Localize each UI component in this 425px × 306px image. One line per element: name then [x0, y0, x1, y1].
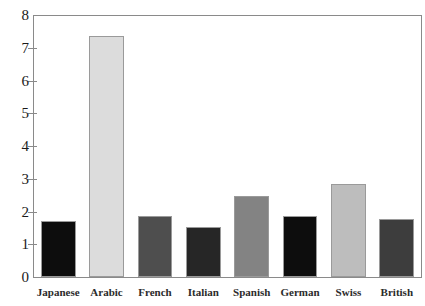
plot-top-border: [33, 15, 422, 16]
y-axis-tick-label: 1: [5, 237, 29, 252]
bar-german: [283, 216, 318, 277]
bar-japanese: [41, 221, 76, 277]
x-axis-label-arabic: Arabic: [82, 287, 130, 298]
y-axis-tick: [28, 212, 37, 213]
bar-swiss: [331, 184, 366, 277]
y-axis-tick: [28, 179, 37, 180]
x-axis-label-french: French: [131, 287, 179, 298]
y-axis-tick-label: 5: [5, 106, 29, 121]
y-axis-tick-label: 0: [5, 270, 29, 285]
bar-french: [138, 216, 173, 277]
x-axis-label-british: British: [373, 287, 421, 298]
y-axis-tick-label: 4: [5, 139, 29, 154]
x-axis-label-swiss: Swiss: [324, 287, 372, 298]
plot-right-border: [421, 15, 422, 278]
y-axis-tick: [28, 113, 37, 114]
bar-italian: [186, 227, 221, 277]
x-axis-label-japanese: Japanese: [34, 287, 82, 298]
bar-british: [379, 219, 414, 277]
x-axis-line: [33, 277, 422, 278]
y-axis-tick: [28, 48, 37, 49]
y-axis-tick-label: 3: [5, 171, 29, 186]
bar-spanish: [234, 196, 269, 277]
y-axis-tick-label: 8: [5, 8, 29, 23]
y-axis-tick-label: 2: [5, 204, 29, 219]
y-axis-tick-label: 7: [5, 40, 29, 55]
x-axis-label-german: German: [276, 287, 324, 298]
x-axis-label-italian: Italian: [179, 287, 227, 298]
y-axis-tick: [28, 146, 37, 147]
bar-chart: 012345678 JapaneseArabicFrenchItalianSpa…: [0, 0, 425, 306]
y-axis-tick-label: 6: [5, 73, 29, 88]
bar-arabic: [89, 36, 124, 277]
y-axis-tick: [28, 244, 37, 245]
x-axis-label-spanish: Spanish: [228, 287, 276, 298]
y-axis-tick: [28, 81, 37, 82]
